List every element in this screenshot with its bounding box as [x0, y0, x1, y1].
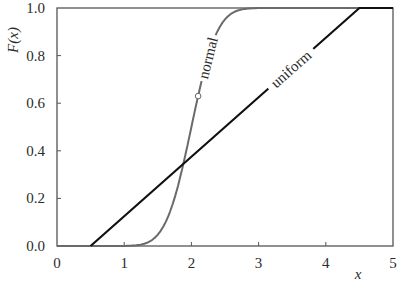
- y-tick-label: 0.0: [26, 238, 45, 254]
- y-tick-label: 0.4: [26, 143, 45, 159]
- y-tick-label: 0.8: [26, 48, 45, 64]
- x-tick-label: 3: [255, 255, 263, 271]
- uniform-label-text: uniform: [268, 47, 315, 91]
- x-tick-label: 0: [53, 255, 61, 271]
- y-axis: 0.00.20.40.60.81.0: [26, 0, 61, 254]
- y-axis-label: F(x): [5, 27, 22, 54]
- uniform-curve-label: uniform: [263, 42, 319, 94]
- normal-label-text: normal: [195, 35, 221, 80]
- y-tick-label: 0.6: [26, 95, 45, 111]
- x-tick-label: 5: [389, 255, 397, 271]
- x-axis-label: x: [354, 266, 362, 282]
- cdf-chart: 012345 0.00.20.40.60.81.0 F(x) x normal …: [0, 0, 399, 294]
- markers: [195, 93, 201, 99]
- x-tick-label: 2: [188, 255, 196, 271]
- x-tick-label: 4: [322, 255, 330, 271]
- y-tick-label: 0.2: [26, 190, 45, 206]
- y-tick-label: 1.0: [26, 0, 45, 16]
- open-circle-marker: [195, 93, 201, 99]
- x-tick-label: 1: [120, 255, 128, 271]
- series-group: [57, 8, 393, 246]
- normal-curve-label: normal: [193, 33, 221, 84]
- uniform-cdf-line: [91, 8, 393, 246]
